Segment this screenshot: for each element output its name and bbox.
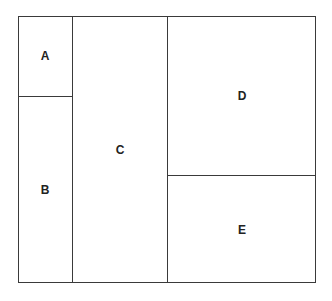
region-e-label: E <box>238 223 246 237</box>
region-e: E <box>168 176 316 283</box>
region-c-label: C <box>116 143 125 157</box>
region-c: C <box>73 16 167 283</box>
region-d-label: D <box>238 89 247 103</box>
region-b: B <box>18 97 72 283</box>
region-d: D <box>168 16 316 175</box>
region-a: A <box>18 16 72 96</box>
region-b-label: B <box>41 183 50 197</box>
region-a-label: A <box>41 49 50 63</box>
